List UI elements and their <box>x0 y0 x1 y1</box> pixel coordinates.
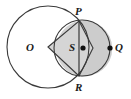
geometry-figure: O P S Q R <box>0 0 131 99</box>
point-label-P: P <box>75 6 82 17</box>
point-label-Q: Q <box>115 42 123 53</box>
point-label-R: R <box>75 82 82 93</box>
point-label-O: O <box>26 42 34 53</box>
geometry-diagram <box>0 0 131 99</box>
point-label-S: S <box>69 42 75 53</box>
dot-Q <box>107 45 112 50</box>
dot-S <box>80 45 85 50</box>
